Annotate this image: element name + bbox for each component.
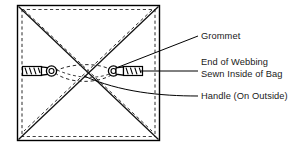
left-grommet-ring-inner [49, 69, 54, 74]
right-grommet-ring-inner [111, 69, 116, 74]
labels-group: Grommet End of Webbing Sewn Inside of Ba… [201, 31, 288, 101]
right-handle-assembly [108, 66, 142, 76]
label-handle: Handle (On Outside) [201, 91, 288, 101]
left-handle-assembly [23, 66, 57, 76]
label-grommet: Grommet [201, 31, 241, 41]
label-end-of-webbing-line2: Sewn Inside of Bag [201, 69, 283, 79]
label-end-of-webbing-line1: End of Webbing [201, 57, 268, 67]
diagram-page: Grommet End of Webbing Sewn Inside of Ba… [0, 0, 308, 159]
bag-handle-diagram: Grommet End of Webbing Sewn Inside of Ba… [0, 0, 308, 159]
